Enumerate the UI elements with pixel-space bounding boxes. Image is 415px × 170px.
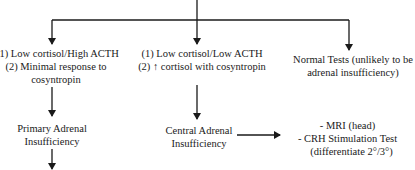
central-ai-line-2: Insufficiency — [149, 137, 249, 150]
central-workup-line-3: (differentiate 2°/3°) — [285, 145, 410, 158]
central-workup-line-2: - CRH Stimulation Test — [285, 132, 410, 145]
primary-ai-line-1: Primary Adrenal — [2, 122, 102, 135]
normal-tests-line-2: adrenal insufficiency) — [292, 66, 414, 79]
central-workup-line-1: - MRI (head) — [285, 119, 410, 132]
primary-ai-line-2: Insufficiency — [2, 135, 102, 148]
primary-criteria-line-2: (2) Minimal response to — [0, 60, 116, 73]
primary-criteria-line-1: (1) Low cortisol/High ACTH — [0, 47, 116, 60]
normal-tests-node: Normal Tests (unlikely to be adrenal ins… — [292, 53, 414, 79]
central-criteria-node: (1) Low cortisol/Low ACTH (2) ↑ cortisol… — [137, 47, 267, 73]
primary-ai-node: Primary Adrenal Insufficiency — [2, 122, 102, 148]
normal-tests-line-1: Normal Tests (unlikely to be — [292, 53, 414, 66]
primary-criteria-node: (1) Low cortisol/High ACTH (2) Minimal r… — [0, 47, 116, 86]
central-criteria-line-1: (1) Low cortisol/Low ACTH — [137, 47, 267, 60]
central-workup-node: - MRI (head) - CRH Stimulation Test (dif… — [285, 119, 410, 158]
primary-criteria-line-3: cosyntropin — [0, 73, 116, 86]
central-ai-node: Central Adrenal Insufficiency — [149, 124, 249, 150]
central-ai-line-1: Central Adrenal — [149, 124, 249, 137]
central-criteria-line-2: (2) ↑ cortisol with cosyntropin — [137, 60, 267, 73]
